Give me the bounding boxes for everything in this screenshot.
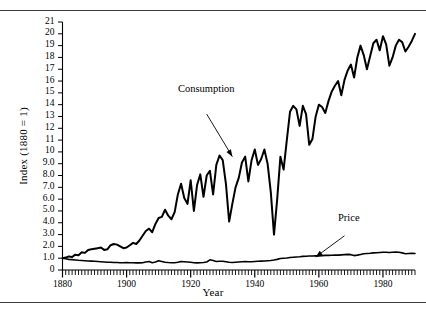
annotation-arrows-group <box>207 114 345 257</box>
y-tick-label: 4.0 <box>15 216 55 226</box>
axes-group <box>63 22 416 270</box>
x-axis-title: Year <box>0 286 426 298</box>
consumption-series-label: Consumption <box>178 83 235 94</box>
series-line-price <box>63 252 416 263</box>
data-series-group <box>63 34 416 263</box>
y-tick-label: 17 <box>15 63 55 73</box>
tick-marks-group <box>58 22 415 278</box>
y-tick-label: 1.0 <box>15 252 55 262</box>
axis-spines <box>63 22 416 270</box>
y-tick-label: 20 <box>15 27 55 37</box>
y-tick-label: 18 <box>15 51 55 61</box>
annotation-arrow-head <box>226 149 232 156</box>
price-series-label: Price <box>338 212 360 223</box>
series-line-consumption <box>63 34 416 258</box>
y-axis-title: Index (1880 = 1) <box>17 76 29 216</box>
chart-plot <box>0 0 426 313</box>
y-tick-label: 0 <box>15 264 55 274</box>
y-tick-label: 2.0 <box>15 240 55 250</box>
annotation-arrow-line <box>207 114 233 157</box>
figure-container: 01.02.03.04.05.06.07.08.09.0101112131415… <box>0 0 426 313</box>
y-tick-label: 21 <box>15 16 55 26</box>
y-tick-label: 3.0 <box>15 228 55 238</box>
y-tick-label: 19 <box>15 39 55 49</box>
